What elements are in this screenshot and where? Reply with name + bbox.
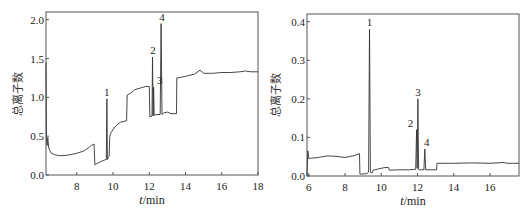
x-tick-label: 10 [376,181,388,193]
y-tick-label: 0.2 [291,93,305,105]
y-tick-label: 2.0 [30,14,44,26]
x-tick-label: 12 [412,181,423,193]
y-tick-label: 1.5 [30,53,44,65]
peak-label-2: 2 [150,44,156,56]
y-axis-label: 总离子数 [269,73,283,117]
chart-right-plot: 0.00.10.20.30.46810121416t/min总离子数1234 [266,0,531,213]
tic-trace-line [307,29,519,176]
x-tick-label: 18 [253,180,265,192]
x-axis-label: t/min [139,193,164,207]
y-tick-label: 1.0 [30,91,44,103]
peak-label-2: 2 [408,117,414,129]
peak-label-4: 4 [159,11,165,23]
x-axis-label: t/min [400,194,425,208]
y-tick-label: 0.1 [291,131,305,143]
plot-frame [307,14,519,176]
peak-label-3: 3 [157,74,163,86]
x-tick-label: 12 [144,180,155,192]
y-tick-label: 0.5 [30,130,44,142]
x-tick-label: 16 [216,180,228,192]
chart-left-plot: 0.00.51.01.52.081012141618t/min总离子数1234 [0,0,266,213]
chart-right: 0.00.10.20.30.46810121416t/min总离子数1234 [266,0,531,213]
y-axis-label: 总离子数 [11,72,25,116]
x-tick-label: 14 [180,180,192,192]
peak-label-3: 3 [415,86,421,98]
chart-left: 0.00.51.01.52.081012141618t/min总离子数1234 [0,0,266,213]
y-tick-label: 0.4 [291,16,305,28]
x-tick-label: 14 [448,181,460,193]
peak-label-1: 1 [367,16,373,28]
y-tick-label: 0.0 [30,169,44,181]
y-tick-label: 0.3 [291,54,305,66]
x-tick-label: 10 [108,180,120,192]
x-tick-label: 8 [342,181,348,193]
peak-label-1: 1 [104,86,110,98]
x-tick-label: 6 [306,181,312,193]
x-tick-label: 16 [485,181,497,193]
x-tick-label: 8 [74,180,80,192]
y-tick-label: 0.0 [291,170,305,182]
peak-label-4: 4 [424,136,430,148]
